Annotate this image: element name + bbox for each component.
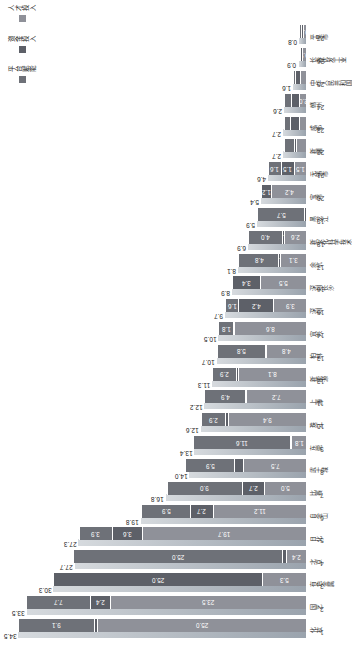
bar-stack: 8.12.9 (212, 368, 306, 381)
bar-segment: 3.1 (280, 254, 306, 267)
bar-total-gradient (299, 37, 306, 44)
bar-total-gradient (218, 334, 306, 341)
bar-category-label: 柏林 (310, 354, 322, 360)
bar-category-label: 自金山 (310, 514, 328, 520)
bar-segment-value: 1.6 (270, 166, 279, 172)
bar-segment: 9.4 (228, 413, 306, 426)
bar-segment: 4.8 (238, 254, 278, 267)
bar-total-gradient (212, 380, 306, 387)
bar-total-value: 19.8 (126, 518, 139, 525)
bar-total-gradient (194, 448, 306, 455)
bar-segment: 19.7 (142, 527, 306, 540)
bar-stack: 2.0 (284, 94, 306, 107)
chart-legend: 平台赋能资金投入人才投入 (8, 6, 36, 84)
bar-segment (300, 71, 306, 84)
legend-label: 资金投入 (8, 37, 36, 44)
bar-segment-value: 4.8 (255, 257, 264, 263)
bar-segment: 1.2 (261, 185, 271, 198)
bar-stack: 23.52.47.7 (26, 596, 306, 609)
bar-total-gradient (232, 288, 306, 295)
bar-total-value: 30.3 (39, 586, 52, 593)
bar-segment-value: 2.4 (96, 599, 105, 605)
bar-category-label: 黑龙江 (310, 217, 328, 223)
legend-item-0[interactable]: 平台赋能 (8, 67, 36, 84)
legend-item-2[interactable]: 人才投入 (8, 6, 36, 23)
bar-segment-value: 1.8 (295, 439, 304, 445)
legend-item-1[interactable]: 资金投入 (8, 37, 36, 54)
bar-segment: 2.9 (212, 368, 236, 381)
bar-segment-value: 1.5 (296, 166, 305, 172)
bar-stack: 5.7 (257, 208, 306, 221)
bar-segment: 2.9 (201, 413, 225, 426)
bar-segment: 25.0 (73, 550, 282, 563)
bar-segment: 1.5 (294, 162, 307, 175)
bar-stack: 8.60.11.8 (218, 322, 306, 335)
bar-segment-value: 5.9 (162, 508, 171, 514)
bar-category-label: 上海 (310, 399, 322, 405)
bar-total-value: 0.9 (287, 62, 296, 69)
bar-segment: 8.6 (234, 322, 306, 335)
bar-segment: 1.8 (218, 322, 233, 335)
bar-segment-value: 2.0 (299, 97, 306, 103)
bar-stack: 5.02.79.0 (167, 482, 306, 495)
bar-total-value: 10.5 (204, 336, 217, 343)
bar-total-value: 34.5 (4, 632, 17, 639)
bar-segment-value: 5.7 (277, 211, 286, 217)
bar-category-label: 武士城 (310, 468, 328, 474)
bar-segment: 5.8 (217, 345, 265, 358)
bar-stack: 9.42.9 (201, 413, 306, 426)
bar-segment: 3.9 (79, 527, 112, 540)
legend-label: 人才投入 (8, 6, 36, 13)
bar-stack: 11.22.75.9 (141, 505, 306, 518)
bar-segment: 3.6 (112, 527, 142, 540)
bar-stack: 2.60.24.0 (248, 231, 306, 244)
bar-category-label: 日化 (310, 536, 322, 542)
bar-total-gradient (201, 425, 306, 432)
bar-total-value: 2.7 (272, 130, 281, 137)
bar-total-gradient (284, 106, 306, 113)
bar-category-label: 园艺 (310, 605, 322, 611)
bar-segment-value: 1.2 (262, 188, 271, 194)
bar-segment: 1.8 (291, 436, 306, 449)
bar-stack: 1.811.6 (193, 436, 306, 449)
bar-total-gradient (141, 517, 306, 524)
bar-total-value: 0.8 (288, 39, 297, 46)
bar-total-value: 6.9 (237, 244, 246, 251)
bar-category-label: 有色金属 (310, 582, 334, 588)
bar-stack (284, 117, 307, 130)
bar-segment-value: 5.8 (237, 348, 246, 354)
bar-segment (284, 139, 294, 152)
bar-stack: 3.94.21.6 (225, 299, 306, 312)
bar-total-gradient (166, 494, 306, 501)
bar-segment: 11.2 (213, 505, 306, 518)
bar-category-label: 深圳 (310, 308, 322, 314)
bar-segment: 9.1 (18, 619, 94, 632)
bar-segment (284, 94, 291, 107)
bar-segment: 5.9 (185, 459, 234, 472)
bar-segment-value: 23.5 (202, 599, 214, 605)
legend-swatch (19, 16, 26, 23)
bar-segment-value: 0.2 (282, 234, 285, 240)
bar-category-label: 北京 (310, 559, 322, 565)
bar-total-gradient (261, 197, 306, 204)
bar-total-value: 8.9 (221, 290, 230, 297)
bar-stack: 7.20.14.9 (204, 390, 306, 403)
bar-segment-value: 11.2 (254, 508, 266, 514)
bar-category-label: 化妆 (310, 628, 322, 634)
bar-total-value: 2.6 (273, 107, 282, 114)
bar-category-label: 平果市 (310, 34, 328, 40)
bar-segment: 25.0 (53, 573, 262, 586)
bar-segment: 2.6 (284, 231, 306, 244)
bar-segment: 11.6 (193, 436, 290, 449)
bar-total-value: 10.7 (202, 358, 215, 365)
bar-segment-value: 9.1 (52, 622, 61, 628)
bar-stack: 3.10.24.8 (238, 254, 306, 267)
bar-segment: 8.1 (238, 368, 306, 381)
bar-segment: 3.9 (273, 299, 306, 312)
bar-stack: 7.55.9 (185, 459, 306, 472)
bar-segment-value: 0.9 (302, 52, 306, 58)
bar-total-value: 27.3 (64, 541, 77, 548)
bar-category-label: 珠江 (310, 422, 322, 428)
